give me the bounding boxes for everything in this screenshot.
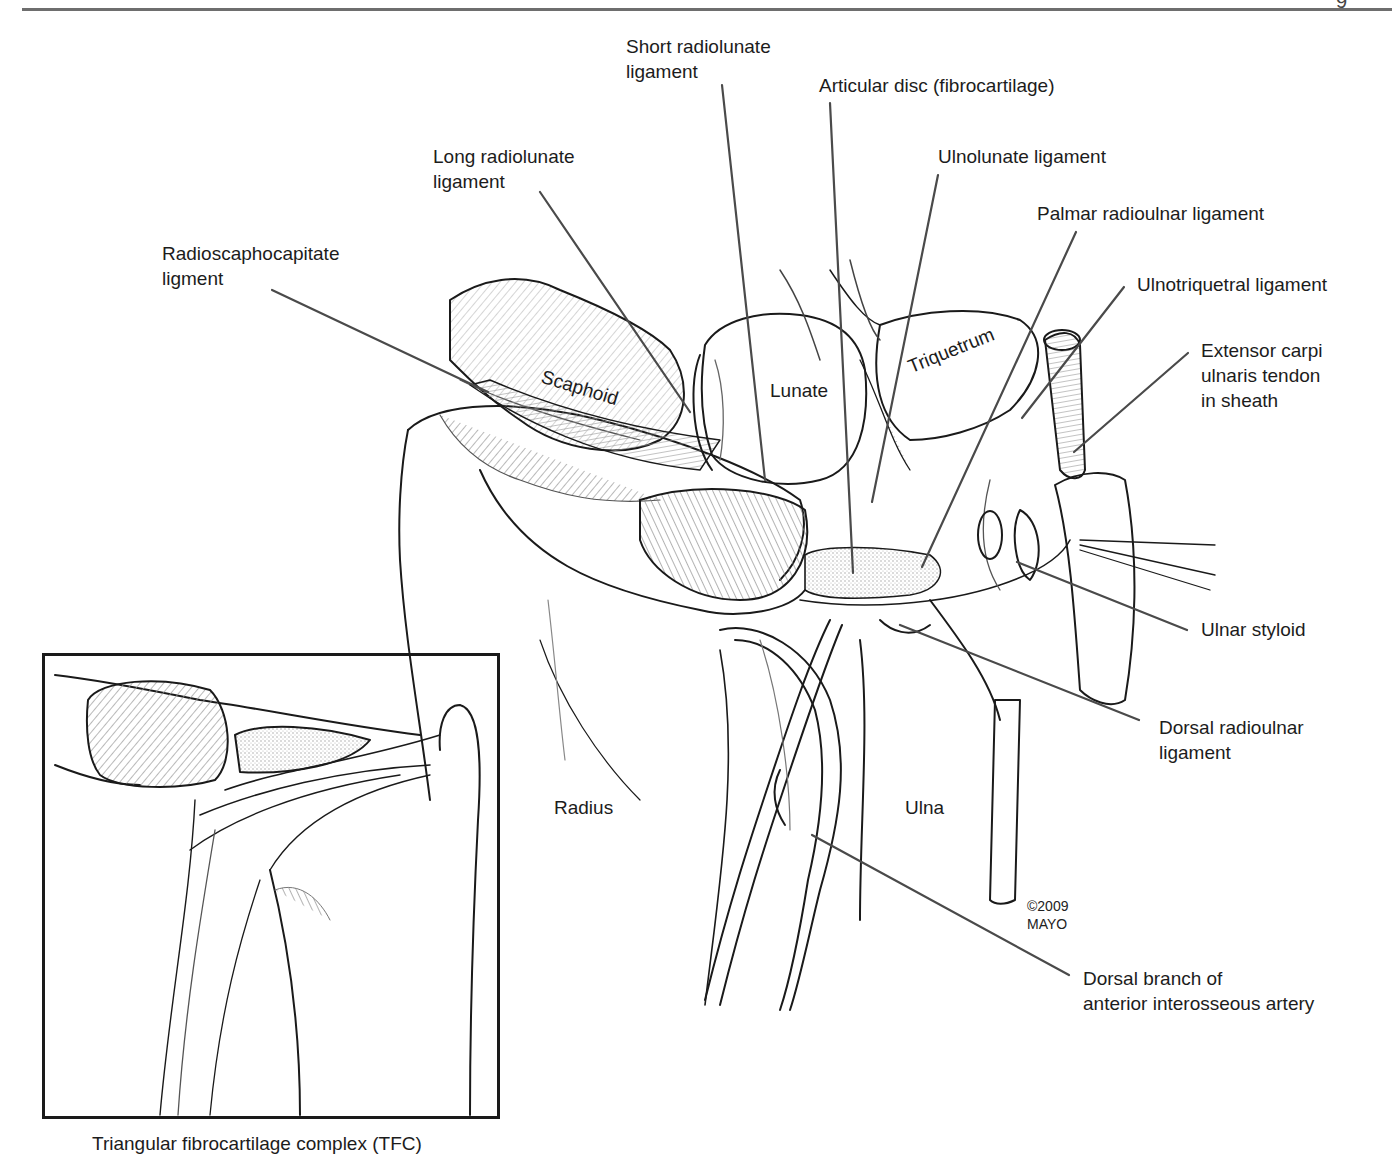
copyright-year: ©2009 (1027, 897, 1068, 915)
label-ecu-tendon: Extensor carpi ulnaris tendon in sheath (1201, 338, 1322, 413)
label-line: ligament (1159, 740, 1304, 765)
label-palmar-radioulnar-ligament: Palmar radioulnar ligament (1037, 201, 1264, 226)
label-line: Dorsal branch of (1083, 966, 1314, 991)
leader-short-radiolunate (722, 85, 765, 480)
label-line: ligament (433, 169, 575, 194)
label-line: Short radiolunate (626, 34, 771, 59)
ecu-tendon (1045, 333, 1085, 478)
label-line: Radioscaphocapitate (162, 241, 339, 266)
label-ulnolunate-ligament: Ulnolunate ligament (938, 144, 1106, 169)
label-ulnar-styloid: Ulnar styloid (1201, 617, 1306, 642)
label-dorsal-branch-artery: Dorsal branch of anterior interosseous a… (1083, 966, 1314, 1016)
label-radioscaphocapitate-ligament: Radioscaphocapitate ligment (162, 241, 339, 291)
label-line: Long radiolunate (433, 144, 575, 169)
inset-caption: Triangular fibrocartilage complex (TFC) (92, 1133, 422, 1155)
leader-ulnolunate (872, 175, 938, 502)
label-short-radiolunate-ligament: Short radiolunate ligament (626, 34, 771, 84)
label-line: anterior interosseous artery (1083, 991, 1314, 1016)
ulna-bone (860, 640, 864, 920)
label-articular-disc: Articular disc (fibrocartilage) (819, 73, 1054, 98)
leader-ecu-tendon (1074, 353, 1188, 452)
label-line: Ulnar styloid (1201, 617, 1306, 642)
triquetrum-bone (876, 311, 1038, 440)
bone-label-ulna: Ulna (905, 797, 944, 819)
main-drawing (399, 260, 1215, 1010)
label-line: in sheath (1201, 388, 1322, 413)
copyright-owner: MAYO (1027, 915, 1068, 933)
label-line: Dorsal radioulnar (1159, 715, 1304, 740)
bone-label-lunate: Lunate (770, 380, 828, 402)
label-long-radiolunate-ligament: Long radiolunate ligament (433, 144, 575, 194)
label-line: Articular disc (fibrocartilage) (819, 73, 1054, 98)
copyright-mark: ©2009 MAYO (1027, 897, 1068, 933)
label-dorsal-radioulnar-ligament: Dorsal radioulnar ligament (1159, 715, 1304, 765)
label-line: Ulnolunate ligament (938, 144, 1106, 169)
label-line: Palmar radioulnar ligament (1037, 201, 1264, 226)
label-line: ligament (626, 59, 771, 84)
label-line: Ulnotriquetral ligament (1137, 272, 1327, 297)
label-line: ligment (162, 266, 339, 291)
inset-tfc-frame (42, 653, 500, 1119)
articular-disc (805, 548, 940, 599)
bone-label-radius: Radius (554, 797, 613, 819)
label-line: ulnaris tendon (1201, 363, 1322, 388)
leader-ulnar-styloid (1017, 562, 1187, 630)
label-line: Extensor carpi (1201, 338, 1322, 363)
label-ulnotriquetral-ligament: Ulnotriquetral ligament (1137, 272, 1327, 297)
